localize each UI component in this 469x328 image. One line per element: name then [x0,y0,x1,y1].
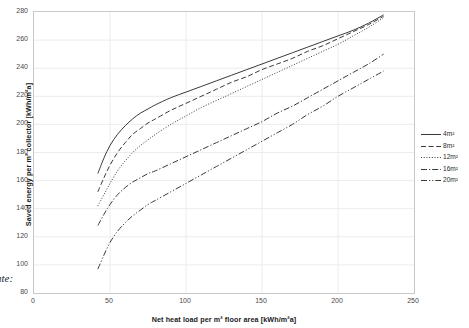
legend-label: 12m² [443,153,458,160]
y-tick-label: 100 [2,260,28,268]
series-line-12m2 [98,18,384,206]
plot-svg [34,12,414,293]
legend-line-swatch [421,133,441,134]
x-tick-label: 200 [322,297,352,305]
x-tick-label: 100 [170,297,200,305]
legend-label: 4m² [443,130,454,137]
chart-legend: 4m²8m²12m²16m²20m² [421,128,469,186]
x-axis-title: Net heat load per m² floor area [kWh/m²a… [33,315,415,324]
chart-page: 80100120140160180200220240260280 0501001… [0,0,469,328]
legend-item[interactable]: 16m² [421,163,469,175]
x-tick-label: 50 [94,297,124,305]
legend-label: 20m² [443,176,458,183]
y-tick-label: 260 [2,35,28,43]
x-tick-label: 150 [246,297,276,305]
x-tick-label: 250 [398,297,428,305]
legend-line-swatch [421,156,441,157]
y-tick-label: 80 [2,288,28,296]
series-line-20m2 [98,71,384,269]
plot-area [33,11,415,294]
legend-line-swatch [421,179,441,180]
legend-label: 8m² [443,142,454,149]
legend-item[interactable]: 8m² [421,140,469,152]
legend-item[interactable]: 20m² [421,174,469,186]
legend-label: 16m² [443,165,458,172]
stray-caption: ate: [0,272,13,284]
legend-line-swatch [421,145,441,146]
legend-item[interactable]: 12m² [421,151,469,163]
legend-line-swatch [421,168,441,169]
x-tick-label: 0 [18,297,48,305]
series-line-16m2 [98,54,384,225]
legend-item[interactable]: 4m² [421,128,469,140]
y-tick-label: 280 [2,7,28,15]
y-axis-title: Saved energy per m² collector [kWh/m²a] [24,65,33,245]
line-chart: 80100120140160180200220240260280 0501001… [0,0,469,328]
